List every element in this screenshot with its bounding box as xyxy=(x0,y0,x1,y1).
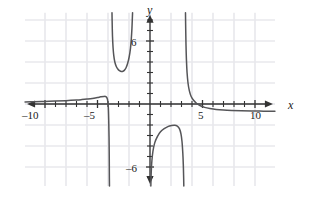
x-tick-label-neg10: –10 xyxy=(22,110,39,121)
x-tick-label-10: 10 xyxy=(250,110,261,121)
axes xyxy=(27,15,273,184)
curve-lower-arch-branch xyxy=(151,125,184,186)
y-tick-label-6: 6 xyxy=(131,37,137,48)
x-tick-label-neg5: –5 xyxy=(84,110,95,121)
x-tick-label-5: 5 xyxy=(198,110,204,121)
plot-canvas xyxy=(0,0,309,204)
y-axis-label: y xyxy=(147,4,152,16)
graph-figure: y x –10 –5 5 10 6 –6 xyxy=(0,0,309,204)
x-axis-label: x xyxy=(288,99,293,111)
y-tick-label-neg6: –6 xyxy=(126,163,137,174)
